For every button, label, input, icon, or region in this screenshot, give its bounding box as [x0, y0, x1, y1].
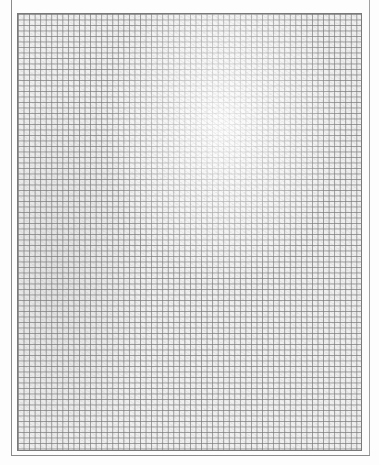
page-edge-right	[369, 0, 370, 456]
scanned-page: Scanned sheet of blank square-ruled grap…	[0, 0, 379, 465]
page-edge-bottom	[11, 455, 370, 456]
scan-texture	[18, 14, 361, 450]
graph-paper-grid	[17, 13, 362, 451]
document-description: Scanned sheet of blank square-ruled grap…	[0, 0, 1, 1]
page-edge-left	[11, 0, 12, 456]
